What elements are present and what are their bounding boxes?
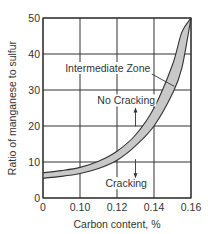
annotation-label: Cracking <box>106 177 148 189</box>
y-tick-label: 40 <box>28 48 40 60</box>
x-tick-label: 0 <box>40 201 46 213</box>
annotation-label: No Cracking <box>97 94 155 106</box>
y-tick-label: 50 <box>28 12 40 24</box>
x-tick-label: 0.10 <box>70 201 91 213</box>
y-axis-ticks: 01020304050 <box>28 12 40 204</box>
y-tick-label: 30 <box>28 84 40 96</box>
x-tick-label: 0.12 <box>107 201 128 213</box>
chart: 00.100.120.140.16 01020304050 Intermedia… <box>0 0 208 234</box>
annotation-label: Intermediate Zone <box>65 62 150 74</box>
x-axis-ticks: 00.100.120.140.16 <box>40 201 201 213</box>
y-tick-label: 0 <box>34 192 40 204</box>
x-tick-label: 0.14 <box>144 201 165 213</box>
y-axis-label: Ratio of manganese to sulfur <box>6 40 18 175</box>
y-tick-label: 20 <box>28 120 40 132</box>
x-tick-label: 0.16 <box>181 201 202 213</box>
y-tick-label: 10 <box>28 156 40 168</box>
x-axis-label: Carbon content, % <box>74 218 161 230</box>
